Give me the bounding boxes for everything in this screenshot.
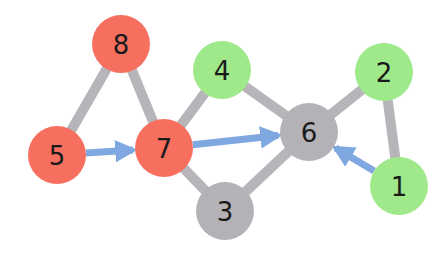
node-label: 7: [156, 134, 173, 164]
node-1: 1: [370, 157, 428, 215]
node-2: 2: [355, 43, 413, 101]
node-label: 8: [113, 30, 130, 60]
node-3: 3: [196, 182, 254, 240]
graph-diagram: 12345678: [0, 0, 447, 259]
node-label: 2: [376, 58, 393, 88]
node-5: 5: [28, 126, 86, 184]
node-label: 6: [301, 118, 318, 148]
node-label: 4: [214, 56, 231, 86]
nodes-layer: 12345678: [28, 15, 428, 240]
node-label: 5: [49, 141, 66, 171]
node-8: 8: [92, 15, 150, 73]
node-7: 7: [135, 119, 193, 177]
node-4: 4: [193, 41, 251, 99]
edge-7-6: [193, 135, 278, 144]
node-label: 1: [391, 172, 408, 202]
node-label: 3: [217, 197, 234, 227]
node-6: 6: [280, 103, 338, 161]
edge-5-7: [86, 150, 133, 153]
edge-1-6: [336, 148, 375, 171]
